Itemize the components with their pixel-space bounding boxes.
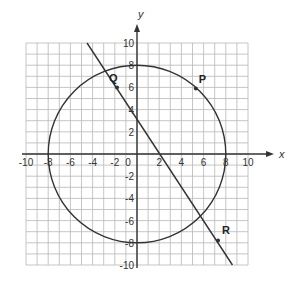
y-tick-label: -2 xyxy=(125,171,134,182)
point-r-label: R xyxy=(222,224,230,236)
x-tick-label: 4 xyxy=(179,157,185,168)
point-q-marker xyxy=(115,85,119,89)
y-tick-label: 6 xyxy=(128,82,134,93)
x-axis-label: x xyxy=(278,148,285,160)
point-p-marker xyxy=(194,87,198,91)
y-tick-label: 2 xyxy=(128,127,134,138)
x-tick-label: -2 xyxy=(110,157,119,168)
y-tick-label: -10 xyxy=(120,260,135,271)
point-r-marker xyxy=(216,239,220,243)
x-tick-label: 10 xyxy=(242,157,254,168)
y-tick-label: -6 xyxy=(125,216,134,227)
x-tick-label: 2 xyxy=(156,157,162,168)
x-tick-label: -6 xyxy=(66,157,75,168)
y-tick-label: 10 xyxy=(123,38,135,49)
x-tick-label: 6 xyxy=(201,157,207,168)
y-tick-label: -4 xyxy=(125,193,134,204)
x-tick-label: -10 xyxy=(19,157,34,168)
coordinate-plane: -10-8-6-4-20246810108642-2-4-6-8-10 QPR … xyxy=(0,0,290,282)
y-axis-arrow-icon xyxy=(134,24,140,32)
point-p-label: P xyxy=(199,73,206,85)
x-tick-label: 0 xyxy=(125,157,131,168)
y-axis-label: y xyxy=(137,8,145,20)
point-q-label: Q xyxy=(109,72,118,84)
x-axis-arrow-icon xyxy=(266,151,274,157)
x-tick-label: -4 xyxy=(88,157,97,168)
